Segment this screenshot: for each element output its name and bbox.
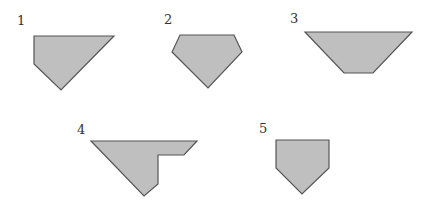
shape-3-label: 3 <box>290 11 298 26</box>
shape-2-polygon <box>172 35 242 88</box>
shape-5-polygon <box>276 140 329 194</box>
shape-4: 4 <box>77 122 197 196</box>
shape-3-polygon <box>305 32 412 73</box>
shape-1: 1 <box>17 13 114 90</box>
shapes-diagram: 1 2 3 4 5 <box>0 0 429 213</box>
shape-5-label: 5 <box>259 121 267 136</box>
shape-5: 5 <box>259 121 329 194</box>
shape-2: 2 <box>164 12 242 88</box>
shape-1-polygon <box>34 36 114 90</box>
shape-1-label: 1 <box>17 13 25 28</box>
shape-2-label: 2 <box>164 12 172 27</box>
shape-3: 3 <box>290 11 412 73</box>
shape-4-label: 4 <box>77 122 85 137</box>
shape-4-polygon <box>91 141 197 196</box>
